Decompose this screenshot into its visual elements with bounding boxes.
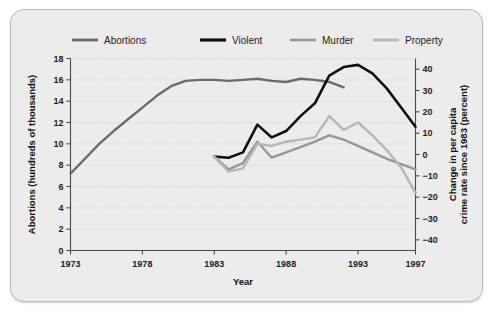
tickmarks [67,59,420,255]
legend-label-violent: Violent [232,35,263,46]
series-lines [71,65,416,193]
gridlines [71,59,416,230]
x-ticklabel: 1973 [60,259,80,269]
y-axis-label-right: Change in per capitacrime rate since 198… [447,85,469,224]
x-ticklabel: 1993 [348,259,368,269]
y-ticklabel-left: 2 [58,224,63,234]
y-ticklabel-left: 12 [53,118,63,128]
y-ticklabel-right: 10 [423,128,433,138]
y-ticklabel-right: −10 [423,171,438,181]
y-ticklabel-left: 4 [58,203,63,213]
legend-label-abortions: Abortions [104,35,146,46]
y-ticklabel-right: −30 [423,214,438,224]
y-axis-label-left: Abortions (hundreds of thousands) [26,75,37,234]
y-ticklabel-right: 30 [423,86,433,96]
x-ticklabel: 1978 [132,259,152,269]
x-ticklabel: 1997 [405,259,425,269]
y-ticklabel-right: 20 [423,107,433,117]
y-ticklabel-right: 40 [423,64,433,74]
y-ticklabel-left: 10 [53,139,63,149]
x-ticklabel: 1988 [276,259,296,269]
chart-container: 024681012141618−40−30−20−100102030401973… [0,0,497,317]
y-ticklabel-left: 6 [58,182,63,192]
y-ticklabel-left: 14 [53,96,63,106]
series-line-property [214,116,415,193]
chart-legend: AbortionsViolentMurderProperty [72,35,443,46]
line-chart: 024681012141618−40−30−20−100102030401973… [0,0,497,317]
y-ticklabel-right: −40 [423,235,438,245]
y-ticklabel-left: 18 [53,54,63,64]
x-axis-label: Year [233,276,253,287]
axis-titles: Abortions (hundreds of thousands)Change … [26,75,469,287]
axes [71,59,416,251]
y-ticklabel-right: −20 [423,192,438,202]
x-ticklabel: 1983 [204,259,224,269]
legend-label-property: Property [405,35,443,46]
y-ticklabel-left: 8 [58,160,63,170]
y-ticklabel-left: 0 [58,246,63,256]
y-ticklabel-left: 16 [53,75,63,85]
y-ticklabel-right: 0 [423,150,428,160]
legend-label-murder: Murder [322,35,354,46]
series-line-abortions [71,79,344,174]
